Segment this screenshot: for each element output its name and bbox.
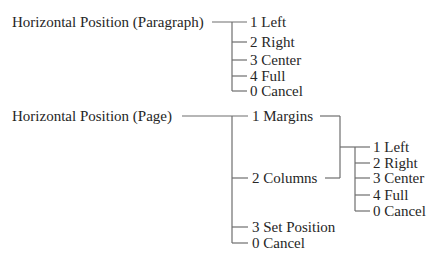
- paragraph-option-left: 1 Left: [250, 14, 286, 30]
- page-option-columns: 2 Columns: [252, 170, 317, 186]
- page-option-margins: 1 Margins: [252, 108, 313, 124]
- sub-option-center: 3 Center: [373, 170, 424, 186]
- paragraph-option-right: 2 Right: [250, 34, 295, 50]
- page-option-cancel: 0 Cancel: [252, 235, 305, 251]
- sub-option-full: 4 Full: [373, 187, 408, 203]
- sub-option-left: 1 Left: [373, 139, 409, 155]
- paragraph-option-full: 4 Full: [250, 68, 285, 84]
- paragraph-option-cancel: 0 Cancel: [250, 83, 303, 99]
- paragraph-option-center: 3 Center: [250, 52, 301, 68]
- menu-tree-diagram: Horizontal Position (Paragraph) 1 Left 2…: [0, 0, 441, 259]
- connector-lines: [0, 0, 441, 259]
- page-root-label: Horizontal Position (Page): [12, 108, 172, 124]
- sub-option-cancel: 0 Cancel: [373, 203, 426, 219]
- paragraph-root-label: Horizontal Position (Paragraph): [12, 14, 204, 30]
- page-option-set-position: 3 Set Position: [252, 219, 335, 235]
- sub-option-right: 2 Right: [373, 155, 418, 171]
